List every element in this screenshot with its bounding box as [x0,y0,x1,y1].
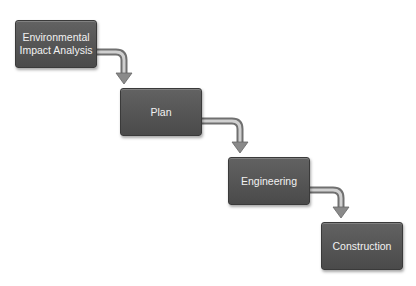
step-environmental-impact-analysis: Environmental Impact Analysis [15,20,97,68]
step-engineering: Engineering [228,157,310,205]
arrow-3-icon [310,190,349,218]
step-label: Construction [333,240,392,253]
step-label: Engineering [241,175,297,188]
step-label: Environmental Impact Analysis [16,31,96,57]
arrow-1-icon [97,52,132,84]
arrow-2-icon [202,121,248,153]
step-plan: Plan [120,88,202,136]
step-label: Plan [150,106,171,119]
step-construction: Construction [321,222,403,270]
